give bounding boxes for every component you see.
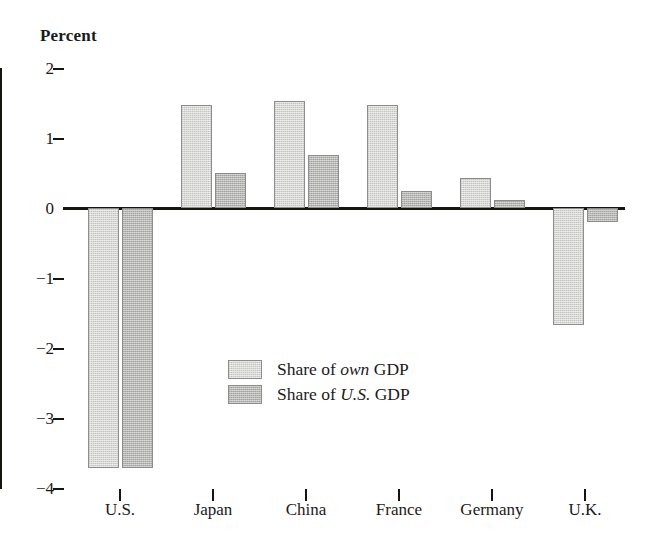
- x-axis-label-us: U.S.: [105, 501, 135, 520]
- y-tick-label: 2: [46, 60, 55, 77]
- legend-swatch: [228, 385, 262, 404]
- legend-swatch: [228, 360, 262, 379]
- y-tick-label: −3: [36, 410, 54, 427]
- bar: [460, 178, 491, 208]
- x-axis-label-france: France: [376, 501, 422, 520]
- bar: [88, 208, 119, 468]
- legend-item: Share of own GDP: [228, 357, 410, 382]
- bar: [553, 208, 584, 325]
- y-axis-title: Percent: [40, 26, 97, 46]
- x-axis-label-germany: Germany: [460, 501, 523, 520]
- y-tick-label: 1: [46, 130, 55, 147]
- x-axis-label-japan: Japan: [194, 501, 233, 520]
- y-tick-label: −1: [36, 270, 54, 287]
- legend: Share of own GDPShare of U.S. GDP: [228, 357, 410, 407]
- y-tick-mark: [53, 418, 64, 420]
- legend-label: Share of own GDP: [277, 361, 409, 379]
- bar: [122, 208, 153, 468]
- y-tick-label: −4: [36, 480, 54, 497]
- bar: [587, 208, 618, 222]
- y-tick-mark: [53, 348, 64, 350]
- x-axis-label-china: China: [286, 501, 327, 520]
- y-tick-mark: [53, 278, 64, 280]
- y-tick-mark: [53, 68, 64, 70]
- bar-chart-figure: Percent 210−1−2−3−4 U.S.JapanChinaFrance…: [0, 0, 665, 547]
- bar: [401, 191, 432, 208]
- bar: [215, 173, 246, 208]
- legend-label: Share of U.S. GDP: [277, 386, 410, 404]
- bar: [274, 101, 305, 208]
- y-tick-label: 0: [46, 200, 55, 217]
- bar: [308, 155, 339, 208]
- y-tick-label: −2: [36, 340, 54, 357]
- bar: [494, 200, 525, 208]
- legend-item: Share of U.S. GDP: [228, 382, 410, 407]
- bar: [181, 105, 212, 208]
- y-tick-mark: [53, 488, 64, 490]
- y-axis-spine: [0, 68, 2, 489]
- bar: [367, 105, 398, 208]
- y-tick-mark: [53, 138, 64, 140]
- x-axis-label-uk: U.K.: [568, 501, 601, 520]
